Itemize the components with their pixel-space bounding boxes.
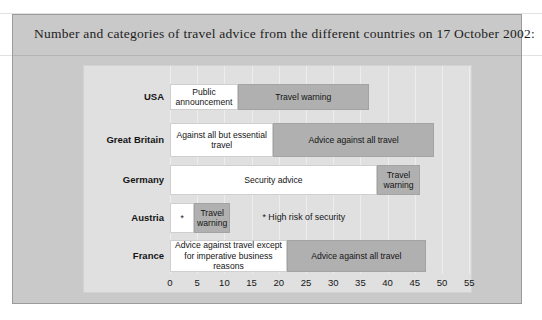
x-tick-label: 5 xyxy=(195,277,200,288)
x-axis: 0510152025303540455055 xyxy=(84,274,471,294)
x-tick-label: 15 xyxy=(246,277,257,288)
bar-segment-grey[interactable]: Advice against all travel xyxy=(287,240,426,272)
caption-band: Number and categories of travel advice f… xyxy=(13,15,521,56)
x-tick-label: 55 xyxy=(464,277,475,288)
x-tick-label: 0 xyxy=(167,277,172,288)
x-tick-label: 45 xyxy=(410,277,421,288)
bar-segment-white[interactable]: Security advice xyxy=(170,165,377,195)
bar-row: GermanySecurity adviceTravel warning xyxy=(84,165,471,195)
bar-row: FranceAdvice against travel except for i… xyxy=(84,240,471,272)
row-label-germany: Germany xyxy=(78,174,164,185)
x-tick-label: 35 xyxy=(355,277,366,288)
bar-segment-white[interactable]: Against all but essential travel xyxy=(170,123,273,157)
bar-segment-white[interactable]: Public announcement xyxy=(170,84,238,110)
bar-row: Austria*Travel warning* High risk of sec… xyxy=(84,203,471,233)
scanned-page: Number and categories of travel advice f… xyxy=(0,0,542,320)
chart-plot-area: USAPublic announcementTravel warningGrea… xyxy=(83,65,472,293)
bar-row: USAPublic announcementTravel warning xyxy=(84,84,471,110)
bar-segment-grey[interactable]: Travel warning xyxy=(194,203,229,233)
row-label-great-britain: Great Britain xyxy=(78,134,164,145)
x-tick-label: 40 xyxy=(382,277,393,288)
x-tick-label: 20 xyxy=(274,277,285,288)
figure-caption: Number and categories of travel advice f… xyxy=(34,26,535,42)
bar-row: Great BritainAgainst all but essential t… xyxy=(84,123,471,157)
row-label-austria: Austria xyxy=(78,212,164,223)
x-tick-label: 25 xyxy=(301,277,312,288)
bar-segment-grey[interactable]: Travel warning xyxy=(238,84,369,110)
bar-segment-grey[interactable]: Travel warning xyxy=(377,165,421,195)
x-tick-label: 50 xyxy=(437,277,448,288)
row-label-usa: USA xyxy=(78,91,164,102)
bar-segment-white[interactable]: * xyxy=(170,203,194,233)
row-label-france: France xyxy=(78,250,164,261)
x-tick-label: 10 xyxy=(219,277,230,288)
bar-segment-white[interactable]: Advice against travel except for imperat… xyxy=(170,240,287,272)
x-tick-label: 30 xyxy=(328,277,339,288)
bar-segment-grey[interactable]: Advice against all travel xyxy=(273,123,433,157)
footnote-high-risk-of-security: * High risk of security xyxy=(262,212,345,222)
figure-frame: Number and categories of travel advice f… xyxy=(12,14,522,304)
